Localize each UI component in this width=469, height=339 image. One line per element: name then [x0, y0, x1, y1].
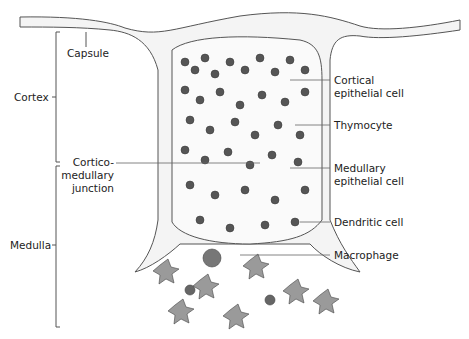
junction-label: Cortico- medullary junction [60, 156, 114, 195]
cortical-epithelial-cell-label: Cortical epithelial cell [334, 74, 404, 100]
medullary-epithelial-cell-label: Medullary epithelial cell [334, 162, 404, 188]
medulla-label: Medulla [10, 239, 51, 252]
thymocyte-label: Thymocyte [334, 119, 393, 132]
capsule-label: Capsule [67, 47, 109, 60]
medulla-cells [153, 249, 339, 329]
cortex-label: Cortex [14, 91, 49, 104]
dendritic-cell-label: Dendritic cell [334, 216, 403, 229]
macrophage-label: Macrophage [334, 249, 399, 262]
